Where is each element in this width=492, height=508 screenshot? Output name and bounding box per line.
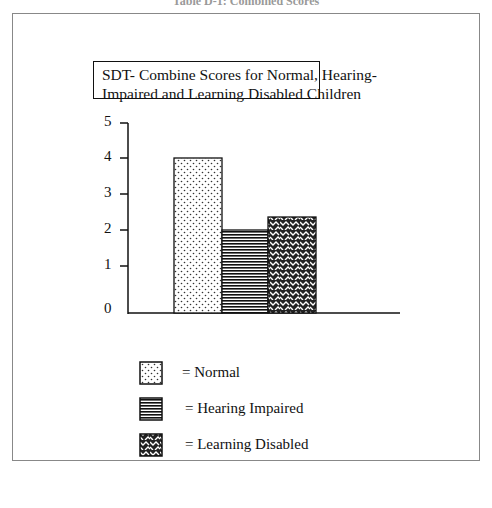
y-tick-3: 3	[104, 184, 112, 201]
legend-swatch-normal	[140, 362, 162, 384]
bar-normal	[174, 158, 222, 313]
legend-label-normal: = Normal	[182, 364, 240, 381]
bar-learning-disabled	[268, 217, 316, 313]
y-tick-2: 2	[104, 220, 112, 237]
legend-swatch-hearing-impaired	[140, 398, 162, 420]
y-tick-0: 0	[104, 300, 112, 317]
y-tick-4: 4	[104, 148, 112, 165]
y-tick-1: 1	[104, 256, 112, 273]
legend-swatch-learning-disabled	[140, 434, 162, 456]
legend-label-learning-disabled: = Learning Disabled	[185, 436, 308, 453]
bar-hearing-impaired	[222, 230, 268, 313]
legend-label-hearing-impaired: = Hearing Impaired	[185, 400, 303, 417]
y-tick-5: 5	[104, 113, 112, 130]
chart-plot	[0, 0, 492, 508]
